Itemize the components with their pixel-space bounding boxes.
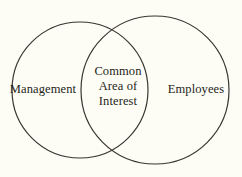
venn-label-intersection-line-1: Common [88, 64, 148, 79]
venn-label-right-set: Employees [158, 82, 234, 97]
venn-label-intersection: Common Area of Interest [88, 64, 148, 109]
venn-label-intersection-line-2: Area of [88, 79, 148, 94]
venn-diagram: Management Common Area of Interest Emplo… [0, 0, 242, 177]
venn-label-intersection-line-3: Interest [88, 94, 148, 109]
venn-label-left-set: Management [8, 82, 78, 97]
